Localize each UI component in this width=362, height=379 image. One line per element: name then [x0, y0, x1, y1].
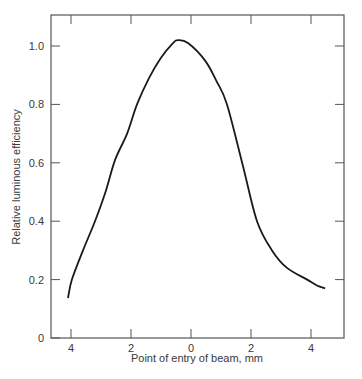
y-tick-label: 0.8 [29, 98, 44, 110]
y-tick-label: 1.0 [29, 40, 44, 52]
efficiency-curve [68, 40, 325, 298]
x-axis: 42024 [68, 15, 314, 354]
y-axis: 00.20.40.60.81.0 [29, 40, 344, 344]
y-tick-label: 0 [38, 332, 44, 344]
x-tick-label: 4 [68, 342, 74, 354]
y-tick-label: 0.2 [29, 274, 44, 286]
x-tick-label: 4 [308, 342, 314, 354]
y-tick-label: 0.6 [29, 157, 44, 169]
x-axis-label: Point of entry of beam, mm [131, 352, 263, 364]
chart: 00.20.40.60.81.0 42024 Point of entry of… [0, 0, 362, 379]
y-tick-label: 0.4 [29, 215, 44, 227]
y-axis-label: Relative luminous efficiency [10, 109, 22, 245]
plot-frame [51, 15, 344, 338]
